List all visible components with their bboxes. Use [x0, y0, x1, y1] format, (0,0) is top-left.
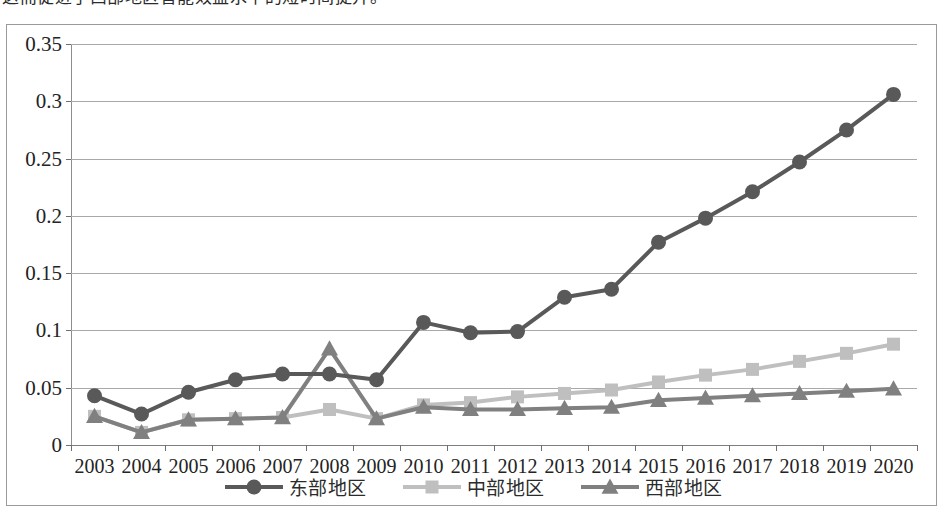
- legend-label: 东部地区: [289, 473, 367, 500]
- circle-marker: [839, 122, 854, 137]
- series-1: [87, 87, 901, 422]
- x-tick-mark: [212, 445, 213, 451]
- plot-area: 00.050.10.150.20.250.30.35 2003200420052…: [71, 44, 917, 445]
- x-tick-mark: [259, 445, 260, 451]
- circle-marker: [87, 388, 102, 403]
- circle-marker: [134, 407, 149, 422]
- y-axis-label: 0.1: [36, 318, 62, 343]
- x-tick-mark: [118, 445, 119, 451]
- chart-figure: 00.050.10.150.20.250.30.35 2003200420052…: [6, 24, 937, 506]
- circle-marker: [416, 315, 431, 330]
- circle-marker: [369, 372, 384, 387]
- y-axis-label: 0.25: [25, 146, 62, 171]
- square-marker: [699, 369, 712, 382]
- square-marker: [605, 384, 618, 397]
- y-axis-label: 0: [52, 433, 63, 458]
- y-axis-label: 0.15: [25, 261, 62, 286]
- series-3: [86, 340, 902, 439]
- legend-item-2[interactable]: 中部地区: [401, 473, 545, 500]
- legend-item-3[interactable]: 西部地区: [579, 473, 723, 500]
- x-tick-mark: [823, 445, 824, 451]
- x-tick-mark: [635, 445, 636, 451]
- y-axis-label: 0.3: [36, 89, 62, 114]
- circle-marker: [792, 155, 807, 170]
- series-layer: [71, 44, 917, 445]
- legend-square-icon: [401, 477, 463, 497]
- caption-text: 这而促进了西部地区智能效益水平的短时间提升。: [0, 0, 943, 8]
- square-marker: [558, 387, 571, 400]
- triangle-marker: [321, 340, 338, 355]
- series-line: [95, 349, 894, 433]
- circle-marker: [181, 385, 196, 400]
- square-marker: [652, 375, 665, 388]
- y-axis-label: 0.2: [36, 203, 62, 228]
- legend-label: 西部地区: [645, 473, 723, 500]
- x-tick-mark: [682, 445, 683, 451]
- x-tick-mark: [870, 445, 871, 451]
- legend-triangle-icon: [579, 477, 641, 497]
- legend-item-1[interactable]: 东部地区: [223, 473, 367, 500]
- x-tick-mark: [494, 445, 495, 451]
- square-marker: [840, 347, 853, 360]
- square-marker: [887, 338, 900, 351]
- x-tick-mark: [400, 445, 401, 451]
- x-tick-mark: [729, 445, 730, 451]
- square-marker: [425, 480, 438, 493]
- x-tick-mark: [776, 445, 777, 451]
- circle-marker: [745, 184, 760, 199]
- square-marker: [793, 355, 806, 368]
- circle-marker: [886, 87, 901, 102]
- y-axis-label: 0.05: [25, 375, 62, 400]
- circle-marker: [322, 366, 337, 381]
- x-tick-mark: [71, 445, 72, 451]
- x-tick-mark: [541, 445, 542, 451]
- x-tick-mark: [306, 445, 307, 451]
- circle-marker: [651, 235, 666, 250]
- legend-circle-icon: [223, 477, 285, 497]
- chart-legend: 东部地区中部地区西部地区: [7, 473, 938, 500]
- circle-marker: [698, 211, 713, 226]
- circle-marker: [246, 479, 261, 494]
- circle-marker: [228, 372, 243, 387]
- x-tick-mark: [588, 445, 589, 451]
- x-tick-mark: [447, 445, 448, 451]
- circle-marker: [510, 324, 525, 339]
- x-tick-mark: [165, 445, 166, 451]
- circle-marker: [604, 282, 619, 297]
- circle-marker: [557, 290, 572, 305]
- square-marker: [323, 403, 336, 416]
- y-axis-label: 0.35: [25, 32, 62, 57]
- x-tick-mark: [353, 445, 354, 451]
- x-tick-mark: [917, 445, 918, 451]
- circle-marker: [275, 366, 290, 381]
- legend-label: 中部地区: [467, 473, 545, 500]
- circle-marker: [463, 325, 478, 340]
- caption-strip: 这而促进了西部地区智能效益水平的短时间提升。: [0, 0, 943, 8]
- square-marker: [746, 363, 759, 376]
